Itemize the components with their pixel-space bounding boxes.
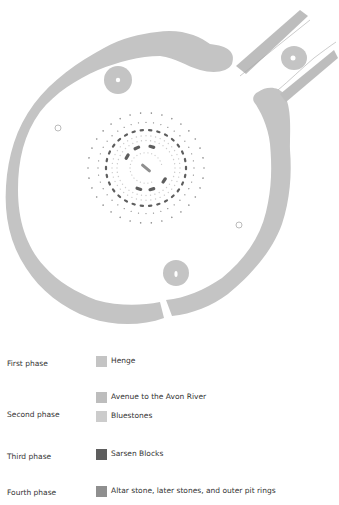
bluestone (174, 184, 176, 186)
outer-pit (188, 204, 190, 206)
sarsen-stone (131, 130, 136, 133)
bluestone (141, 140, 143, 142)
outer-pit (202, 157, 204, 159)
bluestone (179, 167, 180, 168)
sarsen-stone (181, 150, 185, 155)
bluestone (113, 158, 115, 160)
bluestone (114, 154, 116, 156)
sarsen-stone (185, 166, 187, 171)
south-mound-hole (174, 271, 177, 277)
sarsen-stone (184, 173, 187, 178)
sarsen-stone (108, 181, 112, 186)
outer-pit (123, 126, 125, 128)
bluestone (114, 180, 116, 182)
bluestone (176, 180, 178, 182)
bluestone (158, 192, 160, 194)
bluestone (150, 135, 152, 137)
sarsen-stone (148, 129, 153, 132)
outer-pit (180, 211, 182, 213)
bluestone (116, 150, 118, 152)
bluestone (168, 151, 170, 153)
bluestone (150, 199, 152, 201)
sarsen-stone (111, 143, 115, 148)
outer-pit (202, 177, 204, 179)
bluestone-horseshoe (147, 182, 148, 183)
sarsen-stone (124, 133, 129, 137)
bluestone (174, 167, 175, 168)
bluestone (166, 148, 168, 150)
bluestone-horseshoe (159, 160, 161, 162)
bluestone-horseshoe (136, 180, 138, 182)
outer-pit (100, 181, 102, 183)
bluestone (111, 167, 112, 168)
outer-pit (188, 130, 190, 132)
bluestone (123, 191, 125, 193)
trilithon (161, 177, 168, 185)
bluestone (173, 176, 175, 178)
henge-swatch (96, 356, 107, 367)
trilithon (133, 145, 141, 151)
bluestone (125, 186, 127, 188)
bluestone (154, 141, 156, 143)
bluestone (173, 159, 175, 161)
bluestone (159, 138, 161, 140)
bluestone (178, 176, 180, 178)
phase-label: Fourth phase (7, 488, 56, 497)
outer-pit (138, 122, 139, 123)
sarsen-stone (170, 194, 175, 199)
station-stone-marker (236, 222, 242, 228)
bluestone (168, 183, 170, 185)
outer-pit (188, 146, 190, 148)
bluestone (145, 140, 146, 141)
bluestone (128, 145, 130, 147)
bluestone-horseshoe (131, 160, 133, 162)
outer-pit (191, 153, 193, 155)
bluestone (118, 176, 120, 178)
sarsen-stone (117, 137, 122, 142)
phase-label: Second phase (7, 410, 60, 419)
avenue-swatch (96, 392, 107, 403)
bluestone (145, 200, 146, 201)
bluestone (163, 140, 165, 142)
outer-pit (153, 122, 154, 123)
sarsen-stone (148, 204, 153, 207)
bluestone (132, 192, 134, 194)
bluestone (159, 196, 161, 198)
bluestone (136, 193, 138, 195)
outer-pit (167, 126, 169, 128)
bluestone (127, 194, 129, 196)
site-plan (0, 0, 339, 335)
trilithon (124, 153, 130, 161)
outer-pit (98, 160, 99, 161)
outer-pit (194, 138, 196, 140)
bluestone-horseshoe (143, 152, 144, 153)
bluestone (118, 159, 120, 161)
sarsen-stone (181, 181, 185, 186)
bluestone (113, 176, 115, 178)
bluestone (179, 172, 181, 174)
heel-stone-hole (291, 56, 296, 61)
outer-pit (96, 138, 98, 140)
bluestone (136, 136, 138, 138)
bluestone (116, 167, 117, 168)
sarsen-swatch (96, 449, 107, 460)
bluestone (117, 172, 119, 174)
outer-pit (193, 174, 194, 175)
bluestone (166, 186, 168, 188)
bluestone-horseshoe (133, 157, 135, 159)
outer-pit (171, 118, 173, 120)
sarsen-stone (164, 199, 169, 203)
outer-pit (179, 135, 181, 137)
outer-pit (160, 211, 162, 213)
bluestone (145, 195, 146, 196)
outer-pit (106, 140, 108, 142)
bluestone (178, 158, 180, 160)
bluestone-horseshoe (136, 155, 138, 157)
sarsen-stone (170, 137, 175, 142)
sarsen-stone (131, 202, 136, 205)
trilithon (148, 144, 156, 149)
outer-pit (184, 194, 186, 196)
outer-pit (191, 181, 193, 183)
bluestone (174, 172, 176, 174)
bluestone (167, 191, 169, 193)
